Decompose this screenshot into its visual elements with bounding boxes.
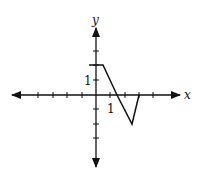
- x-axis-label: x: [184, 88, 191, 102]
- y-axis-label: y: [91, 13, 99, 27]
- x-unit-label: 1: [107, 102, 115, 116]
- coordinate-plane: y x 1 1: [0, 0, 200, 173]
- y-unit-label: 1: [84, 74, 92, 88]
